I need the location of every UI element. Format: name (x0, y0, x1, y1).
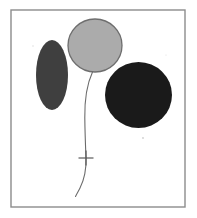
figure-container: Balloon illustration Framed black-and-wh… (0, 0, 197, 218)
scan-speckle (165, 54, 166, 55)
balloon-circle (36, 40, 68, 110)
black-circle (105, 62, 172, 128)
scan-speckle (32, 45, 33, 46)
scan-speckle (142, 137, 144, 139)
illustration-canvas (0, 0, 197, 218)
dark-ellipse (68, 19, 122, 72)
